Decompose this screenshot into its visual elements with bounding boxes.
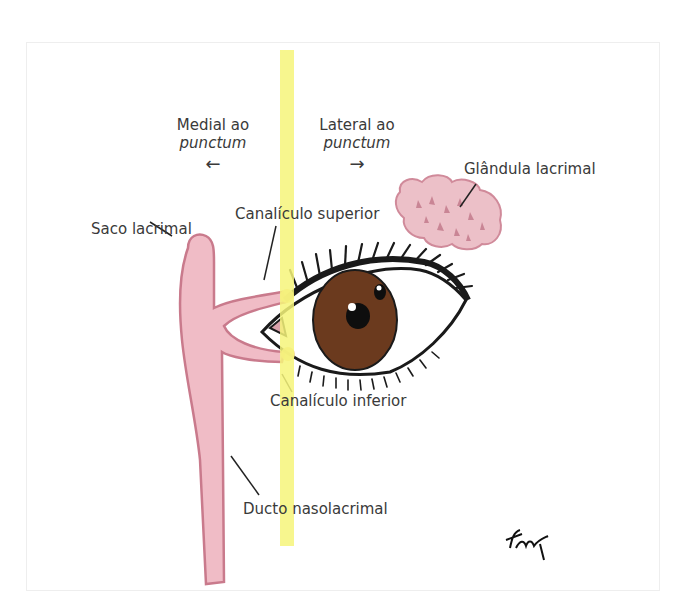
lateral-label-line2: punctum xyxy=(312,134,402,152)
lacrimal-gland-shape xyxy=(396,175,501,249)
medial-label-line2: punctum xyxy=(168,134,258,152)
medial-label-line1: Medial ao xyxy=(168,116,258,134)
inferior-canaliculus-label: Canalículo inferior xyxy=(270,392,406,410)
lateral-label-line1: Lateral ao xyxy=(312,116,402,134)
punctum-reference-line xyxy=(280,50,294,546)
lacrimal-sac-label: Saco lacrimal xyxy=(91,220,192,238)
medial-direction-label: Medial ao punctum ← xyxy=(168,116,258,173)
superior-canaliculus-label: Canalículo superior xyxy=(235,205,379,223)
right-arrow-icon: → xyxy=(312,155,402,173)
left-arrow-icon: ← xyxy=(168,155,258,173)
duct-leader-line xyxy=(231,456,259,495)
superior-canaliculus-leader-line xyxy=(264,226,276,280)
nasolacrimal-duct-label: Ducto nasolacrimal xyxy=(243,500,388,518)
lateral-direction-label: Lateral ao punctum → xyxy=(312,116,402,173)
artist-signature xyxy=(506,530,548,560)
lacrimal-gland-label: Glândula lacrimal xyxy=(464,160,596,178)
